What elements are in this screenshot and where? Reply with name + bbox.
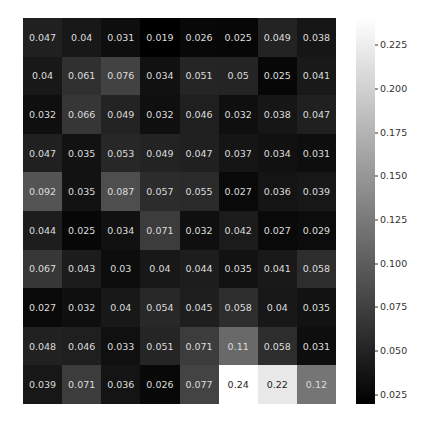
heatmap-cell: 0.053	[101, 134, 140, 173]
heatmap-cell: 0.036	[101, 365, 140, 404]
heatmap-cell: 0.026	[140, 365, 179, 404]
colorbar-tick-label: 0.175	[375, 126, 407, 137]
heatmap-cell: 0.033	[101, 327, 140, 366]
heatmap-cell: 0.025	[62, 211, 101, 250]
heatmap-cell: 0.04	[258, 288, 297, 327]
heatmap-cell: 0.031	[297, 327, 336, 366]
heatmap-cell: 0.04	[101, 288, 140, 327]
heatmap-cell: 0.046	[180, 95, 219, 134]
heatmap-cell: 0.04	[23, 57, 62, 96]
heatmap-cell: 0.045	[180, 288, 219, 327]
heatmap-cell: 0.047	[23, 18, 62, 57]
heatmap-cell: 0.058	[297, 250, 336, 289]
heatmap-cell: 0.041	[258, 250, 297, 289]
heatmap-cell: 0.048	[23, 327, 62, 366]
heatmap-cell: 0.029	[297, 211, 336, 250]
colorbar-tick-label: 0.150	[375, 170, 407, 181]
heatmap-cell: 0.044	[23, 211, 62, 250]
heatmap-cell: 0.047	[23, 134, 62, 173]
heatmap-cell: 0.24	[219, 365, 258, 404]
heatmap-cell: 0.067	[23, 250, 62, 289]
colorbar-tick-label: 0.050	[375, 344, 407, 355]
heatmap-cell: 0.039	[23, 365, 62, 404]
heatmap-cell: 0.05	[219, 57, 258, 96]
heatmap-cell: 0.03	[101, 250, 140, 289]
heatmap-cell: 0.019	[140, 18, 179, 57]
heatmap-cell: 0.034	[101, 211, 140, 250]
colorbar-tick-label: 0.225	[375, 39, 407, 50]
heatmap-cell: 0.047	[297, 95, 336, 134]
heatmap-cell: 0.031	[297, 134, 336, 173]
colorbar-tick-label: 0.025	[375, 388, 407, 399]
heatmap-cell: 0.055	[180, 172, 219, 211]
heatmap-cell: 0.034	[140, 57, 179, 96]
heatmap-cell: 0.087	[101, 172, 140, 211]
heatmap-cell: 0.027	[219, 172, 258, 211]
heatmap-cell: 0.031	[101, 18, 140, 57]
heatmap-cell: 0.036	[258, 172, 297, 211]
heatmap-cell: 0.092	[23, 172, 62, 211]
heatmap-cell: 0.22	[258, 365, 297, 404]
heatmap-cell: 0.057	[140, 172, 179, 211]
heatmap-cell: 0.049	[258, 18, 297, 57]
heatmap-cell: 0.043	[62, 250, 101, 289]
heatmap-cell: 0.04	[62, 18, 101, 57]
heatmap-cell: 0.071	[62, 365, 101, 404]
heatmap-cell: 0.11	[219, 327, 258, 366]
colorbar-tick-label: 0.200	[375, 82, 407, 93]
heatmap-cell: 0.051	[140, 327, 179, 366]
colorbar-tick-label: 0.125	[375, 213, 407, 224]
heatmap-cell: 0.077	[180, 365, 219, 404]
heatmap-cell: 0.032	[23, 95, 62, 134]
heatmap-cell: 0.027	[23, 288, 62, 327]
heatmap-cell: 0.026	[180, 18, 219, 57]
colorbar-tick-label: 0.075	[375, 301, 407, 312]
heatmap-cell: 0.035	[219, 250, 258, 289]
heatmap-cell: 0.035	[297, 288, 336, 327]
heatmap-cell: 0.032	[62, 288, 101, 327]
heatmap-cell: 0.027	[258, 211, 297, 250]
heatmap-grid: 0.0470.040.0310.0190.0260.0250.0490.0380…	[23, 18, 336, 404]
heatmap-cell: 0.035	[62, 172, 101, 211]
heatmap-cell: 0.04	[140, 250, 179, 289]
heatmap-cell: 0.038	[258, 95, 297, 134]
heatmap-cell: 0.12	[297, 365, 336, 404]
heatmap-cell: 0.058	[258, 327, 297, 366]
heatmap-cell: 0.035	[62, 134, 101, 173]
heatmap-cell: 0.046	[62, 327, 101, 366]
heatmap-cell: 0.025	[258, 57, 297, 96]
heatmap-cell: 0.061	[62, 57, 101, 96]
heatmap-cell: 0.047	[180, 134, 219, 173]
heatmap-cell: 0.025	[219, 18, 258, 57]
heatmap-cell: 0.044	[180, 250, 219, 289]
heatmap-cell: 0.071	[140, 211, 179, 250]
heatmap-cell: 0.037	[219, 134, 258, 173]
heatmap-cell: 0.034	[258, 134, 297, 173]
colorbar-tick-label: 0.100	[375, 257, 407, 268]
heatmap-cell: 0.032	[140, 95, 179, 134]
heatmap-cell: 0.038	[297, 18, 336, 57]
heatmap-cell: 0.051	[180, 57, 219, 96]
heatmap-cell: 0.071	[180, 327, 219, 366]
heatmap-cell: 0.049	[140, 134, 179, 173]
heatmap-cell: 0.032	[219, 95, 258, 134]
heatmap-cell: 0.042	[219, 211, 258, 250]
heatmap-cell: 0.049	[101, 95, 140, 134]
heatmap-cell: 0.054	[140, 288, 179, 327]
colorbar	[356, 18, 375, 404]
heatmap-cell: 0.066	[62, 95, 101, 134]
heatmap-cell: 0.058	[219, 288, 258, 327]
heatmap-cell: 0.076	[101, 57, 140, 96]
heatmap-cell: 0.032	[180, 211, 219, 250]
heatmap-cell: 0.041	[297, 57, 336, 96]
heatmap-cell: 0.039	[297, 172, 336, 211]
